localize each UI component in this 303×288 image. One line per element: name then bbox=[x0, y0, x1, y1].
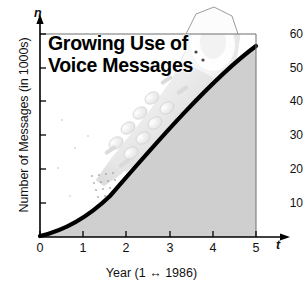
chart-title-line-2: Voice Messages bbox=[48, 55, 193, 77]
y-tick-label-30: 30 bbox=[267, 128, 303, 142]
y-tick-label-60: 60 bbox=[267, 27, 303, 41]
y-tick-label-40: 40 bbox=[267, 94, 303, 108]
x-axis-label: Year (1 ↔ 1986) bbox=[0, 266, 303, 280]
x-tick-label-5: 5 bbox=[244, 241, 268, 255]
x-tick-label-4: 4 bbox=[201, 241, 225, 255]
y-tick-label-50: 50 bbox=[267, 61, 303, 75]
y-axis-variable: n bbox=[34, 6, 42, 20]
chart-figure: Growing Use of Voice Messages n t 60 50 … bbox=[0, 0, 303, 288]
y-tick-label-10: 10 bbox=[267, 196, 303, 210]
x-tick-label-3: 3 bbox=[158, 241, 182, 255]
chart-title: Growing Use of Voice Messages bbox=[48, 33, 193, 77]
x-tick-label-2: 2 bbox=[114, 241, 138, 255]
x-tick-label-0: 0 bbox=[28, 241, 52, 255]
chart-title-line-1: Growing Use of bbox=[48, 33, 193, 55]
y-axis-label: Number of Messages (in 1000s) bbox=[17, 18, 31, 233]
x-axis-arrowhead bbox=[280, 233, 290, 240]
x-tick-label-1: 1 bbox=[71, 241, 95, 255]
x-axis-variable: t bbox=[276, 238, 280, 252]
y-tick-label-20: 20 bbox=[267, 162, 303, 176]
